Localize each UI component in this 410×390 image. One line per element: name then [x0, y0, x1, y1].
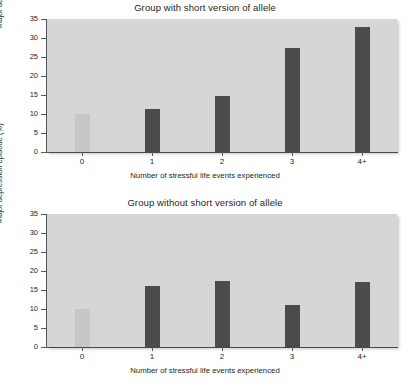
y-axis-title-top: Major depression episode (%)	[0, 0, 4, 28]
y-tick-bottom-10	[41, 309, 46, 310]
bar-bottom-4plus	[355, 282, 370, 347]
y-tick-label-bottom-15: 15	[0, 286, 38, 294]
x-tick-label-top-4plus: 4+	[342, 157, 382, 166]
y-tick-top-25	[41, 57, 46, 58]
y-tick-label-top-10: 10	[0, 110, 38, 118]
y-tick-label-bottom-0: 0	[0, 343, 38, 351]
x-tick-top-4plus	[362, 152, 363, 156]
plot-area-top	[47, 19, 397, 152]
x-tick-top-1	[152, 152, 153, 156]
figure-bar-charts: Group with short version of allele Major…	[0, 0, 410, 390]
x-tick-label-bottom-2: 2	[202, 352, 242, 361]
x-tick-bottom-0	[82, 347, 83, 351]
y-tick-bottom-30	[41, 233, 46, 234]
y-tick-bottom-35	[41, 214, 46, 215]
x-axis-title-top: Number of stressful life events experien…	[0, 171, 410, 180]
bar-bottom-2	[215, 281, 230, 348]
y-tick-top-15	[41, 95, 46, 96]
y-tick-top-35	[41, 19, 46, 20]
y-tick-top-10	[41, 114, 46, 115]
x-tick-bottom-3	[292, 347, 293, 351]
y-tick-label-bottom-30: 30	[0, 229, 38, 237]
x-tick-label-bottom-4plus: 4+	[342, 352, 382, 361]
y-tick-bottom-0	[41, 347, 46, 348]
y-tick-top-5	[41, 133, 46, 134]
bar-top-3	[285, 48, 300, 153]
bar-bottom-1	[145, 286, 160, 347]
y-tick-top-20	[41, 76, 46, 77]
y-tick-top-0	[41, 152, 46, 153]
y-tick-label-bottom-25: 25	[0, 248, 38, 256]
plot-area-bottom	[47, 214, 397, 347]
chart-title-top: Group with short version of allele	[0, 2, 410, 13]
bar-top-1	[145, 109, 160, 152]
x-tick-bottom-4plus	[362, 347, 363, 351]
x-tick-label-top-2: 2	[202, 157, 242, 166]
bar-top-4plus	[355, 27, 370, 152]
bar-top-2	[215, 96, 230, 152]
x-tick-top-3	[292, 152, 293, 156]
x-tick-label-top-3: 3	[272, 157, 312, 166]
y-tick-label-top-5: 5	[0, 129, 38, 137]
x-tick-bottom-2	[222, 347, 223, 351]
y-tick-bottom-20	[41, 271, 46, 272]
chart-title-bottom: Group without short version of allele	[0, 197, 410, 208]
chart-panel-top: Group with short version of allele Major…	[0, 0, 410, 195]
y-tick-label-top-30: 30	[0, 34, 38, 42]
x-tick-bottom-1	[152, 347, 153, 351]
x-tick-label-bottom-1: 1	[132, 352, 172, 361]
y-tick-label-bottom-5: 5	[0, 324, 38, 332]
y-axis-title-bottom: Major depression episode (%)	[0, 103, 4, 223]
chart-panel-bottom: Group without short version of allele Ma…	[0, 195, 410, 390]
x-axis-title-bottom: Number of stressful life events experien…	[0, 366, 410, 375]
bar-bottom-0	[75, 309, 90, 347]
x-tick-label-top-0: 0	[62, 157, 102, 166]
x-tick-label-top-1: 1	[132, 157, 172, 166]
x-tick-top-2	[222, 152, 223, 156]
y-tick-bottom-25	[41, 252, 46, 253]
y-tick-label-top-15: 15	[0, 91, 38, 99]
x-tick-label-bottom-0: 0	[62, 352, 102, 361]
y-tick-bottom-5	[41, 328, 46, 329]
y-tick-label-top-35: 35	[0, 15, 38, 23]
y-tick-label-top-25: 25	[0, 53, 38, 61]
y-tick-label-bottom-20: 20	[0, 267, 38, 275]
y-tick-bottom-15	[41, 290, 46, 291]
y-tick-label-bottom-10: 10	[0, 305, 38, 313]
x-tick-label-bottom-3: 3	[272, 352, 312, 361]
y-tick-top-30	[41, 38, 46, 39]
y-tick-label-top-20: 20	[0, 72, 38, 80]
x-tick-top-0	[82, 152, 83, 156]
y-tick-label-bottom-35: 35	[0, 210, 38, 218]
bar-bottom-3	[285, 305, 300, 347]
bar-top-0	[75, 114, 90, 152]
y-tick-label-top-0: 0	[0, 148, 38, 156]
